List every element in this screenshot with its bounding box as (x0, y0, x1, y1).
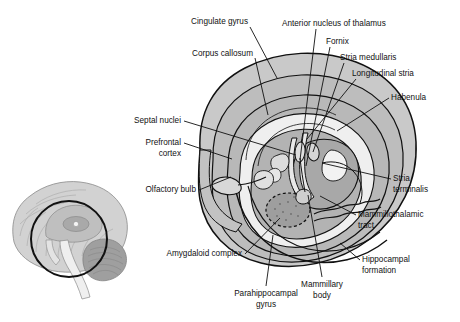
label-corpus-callosum: Corpus callosum (192, 49, 253, 58)
label-fornix: Fornix (326, 37, 349, 46)
label-amygdaloid-complex: Amygdaloid complex (166, 249, 242, 258)
inset-cerebellum (83, 239, 127, 281)
diagram-canvas: Cingulate gyrusAnterior nucleus of thala… (0, 0, 460, 322)
limbic-system-figure: Cingulate gyrusAnterior nucleus of thala… (0, 0, 460, 322)
label-cingulate-gyrus: Cingulate gyrus (191, 17, 248, 26)
label-anterior-nucleus-of-thalamus: Anterior nucleus of thalamus (282, 19, 386, 28)
label-habenula: Habenula (391, 93, 426, 102)
label-septal-nuclei: Septal nuclei (134, 116, 181, 125)
optic-chiasm (254, 171, 274, 190)
label-stria-medullaris: Stria medullaris (340, 53, 396, 62)
label-olfactory-bulb: Olfactory bulb (145, 185, 196, 194)
label-longitudinal-stria: Longitudinal stria (352, 69, 414, 78)
inset-massa-intermedia (73, 221, 78, 226)
